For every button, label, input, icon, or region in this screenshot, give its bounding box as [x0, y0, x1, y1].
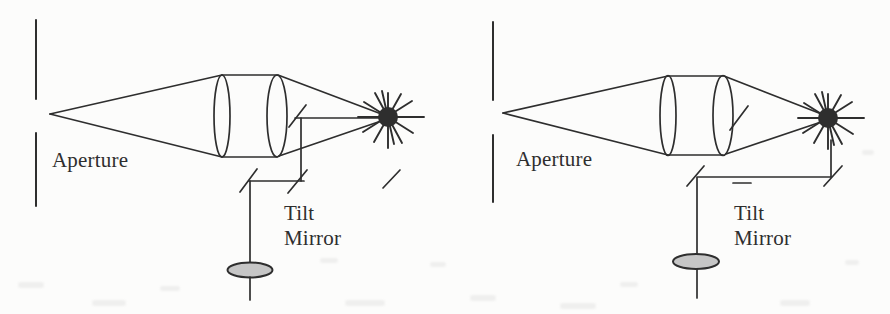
- lens-back-element: [267, 75, 287, 157]
- converging-upper-ray: [724, 76, 824, 115]
- aperture-label-left: Aperture: [52, 148, 128, 173]
- scanned-optical-diagram: Aperture Tilt Mirror Aperture Tilt Mirro…: [0, 0, 890, 314]
- scan-noise-smudge: [560, 303, 596, 309]
- scan-noise-smudge: [345, 300, 385, 306]
- beam-cone-upper-ray: [50, 75, 222, 114]
- scan-noise-smudge: [160, 286, 180, 291]
- converging-lower-ray: [726, 121, 824, 154]
- lens-back-element: [713, 76, 733, 156]
- fold-mirror-tick-right: [824, 166, 842, 186]
- beam-cone-upper-ray: [503, 76, 668, 113]
- point-source-star: [358, 91, 424, 148]
- scan-noise-smudge: [320, 258, 338, 263]
- aperture-label-right: Aperture: [516, 147, 592, 172]
- converging-upper-ray: [278, 75, 384, 115]
- scan-noise-smudge: [862, 150, 874, 155]
- scan-noise-smudge: [845, 260, 859, 265]
- lens-front-element: [660, 76, 676, 156]
- diagram-canvas: [0, 0, 890, 314]
- tilt-mirror-label-right: Tilt Mirror: [734, 201, 791, 251]
- scan-noise-smudge: [780, 300, 810, 306]
- relay-lens: [228, 263, 273, 278]
- converging-lower-ray: [279, 120, 384, 156]
- relay-lens: [673, 254, 719, 269]
- scan-noise-smudge: [92, 300, 126, 306]
- scan-noise-smudge: [430, 262, 446, 267]
- scan-noise-smudge: [18, 282, 44, 288]
- scan-noise-smudge: [620, 282, 638, 287]
- tilt-mirror-label-left: Tilt Mirror: [284, 201, 341, 251]
- stray-mirror-tick: [383, 170, 400, 188]
- scan-noise-smudge: [470, 295, 496, 301]
- lens-front-element: [214, 75, 230, 157]
- fold-mirror-tick-left: [687, 166, 704, 186]
- tilt-mirror-tick-upper: [289, 105, 306, 127]
